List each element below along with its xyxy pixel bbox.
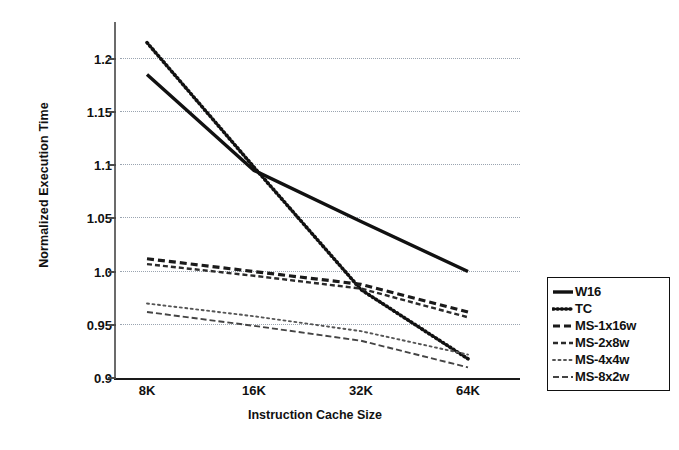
chart-figure: Normalized Execution Time 0.90.951.01.05… [0, 0, 679, 450]
legend-swatch-icon [552, 286, 574, 298]
legend-label: MS-8x2w [575, 370, 629, 383]
legend-item-ms-1x16w[interactable]: MS-1x16w [552, 317, 665, 334]
series-line-ms-8x2w [147, 312, 468, 367]
legend-item-w16[interactable]: W16 [552, 283, 665, 300]
series-line-tc [147, 43, 468, 359]
legend-swatch-icon [552, 320, 574, 332]
legend-label: MS-2x8w [575, 336, 629, 349]
x-axis-title: Instruction Cache Size [115, 408, 515, 422]
legend-swatch-icon [552, 354, 574, 366]
legend-label: MS-4x4w [575, 353, 629, 366]
legend-item-tc[interactable]: TC [552, 300, 665, 317]
series-layer [0, 0, 530, 450]
legend-item-ms-8x2w[interactable]: MS-8x2w [552, 368, 665, 385]
legend: W16TCMS-1x16wMS-2x8wMS-4x4wMS-8x2w [547, 277, 670, 391]
legend-swatch-icon [552, 337, 574, 349]
plot-area: Normalized Execution Time 0.90.951.01.05… [0, 0, 530, 450]
legend-item-ms-2x8w[interactable]: MS-2x8w [552, 334, 665, 351]
legend-swatch-icon [552, 303, 574, 315]
legend-label: W16 [575, 285, 601, 298]
series-line-ms-2x8w [147, 264, 468, 317]
legend-label: MS-1x16w [575, 319, 636, 332]
legend-label: TC [575, 302, 592, 315]
legend-item-ms-4x4w[interactable]: MS-4x4w [552, 351, 665, 368]
legend-swatch-icon [552, 371, 574, 383]
series-line-w16 [147, 75, 468, 272]
